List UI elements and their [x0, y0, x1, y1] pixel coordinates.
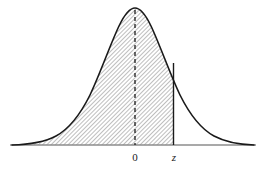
x-axis-label-zero: 0: [132, 151, 138, 163]
normal-distribution-figure: 0 z: [0, 0, 275, 172]
shaded-area: [12, 8, 254, 145]
distribution-chart-canvas: 0 z: [0, 0, 275, 172]
x-axis-label-z: z: [171, 151, 177, 163]
hatched-fill-path: [12, 8, 254, 145]
